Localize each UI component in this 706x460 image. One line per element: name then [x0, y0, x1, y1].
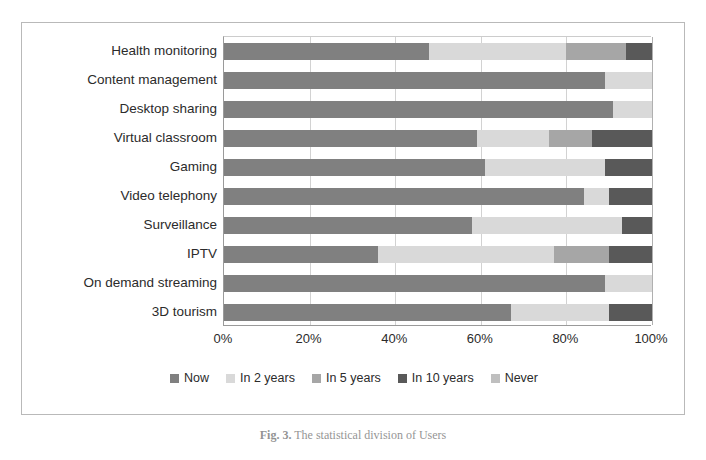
bar-row — [224, 72, 651, 89]
category-label: Video telephony — [27, 188, 217, 203]
bar-row — [224, 159, 651, 176]
figure-caption: Fig. 3. The statistical division of User… — [0, 428, 706, 443]
chart-legend: NowIn 2 yearsIn 5 yearsIn 10 yearsNever — [22, 371, 686, 385]
legend-swatch-icon — [226, 374, 235, 383]
bar-segment — [224, 72, 605, 89]
bar-segment — [549, 130, 592, 147]
legend-label: In 5 years — [326, 371, 381, 385]
category-label: Desktop sharing — [27, 101, 217, 116]
bar-row — [224, 275, 651, 292]
category-label: IPTV — [27, 246, 217, 261]
x-tick-label: 20% — [296, 331, 322, 346]
bar-row — [224, 304, 651, 321]
x-tick-label: 100% — [634, 331, 667, 346]
legend-label: Now — [184, 371, 209, 385]
bar-segment — [613, 101, 652, 118]
value-axis-labels: 0%20%40%60%80%100% — [223, 331, 651, 351]
stacked-bar-chart: Health monitoringContent managementDeskt… — [22, 23, 686, 416]
bar-segment — [224, 101, 613, 118]
bar-segment — [224, 275, 605, 292]
category-label: Health monitoring — [27, 43, 217, 58]
bar-segment — [609, 304, 652, 321]
bar-segment — [224, 43, 429, 60]
legend-item[interactable]: In 5 years — [312, 371, 381, 385]
bar-segment — [224, 304, 511, 321]
bar-segment — [485, 159, 605, 176]
figure-caption-text: The statistical division of Users — [294, 428, 446, 442]
bar-segment — [429, 43, 566, 60]
x-tick-label: 80% — [552, 331, 578, 346]
bar-segment — [609, 188, 652, 205]
gridline-100 — [652, 37, 653, 325]
bar-segment — [605, 159, 652, 176]
category-label: Virtual classroom — [27, 130, 217, 145]
bar-segment — [472, 217, 622, 234]
legend-item[interactable]: Never — [491, 371, 538, 385]
bar-segment — [584, 188, 610, 205]
category-label: Surveillance — [27, 217, 217, 232]
legend-item[interactable]: In 10 years — [398, 371, 474, 385]
bars-layer — [224, 37, 651, 325]
legend-label: Never — [505, 371, 538, 385]
figure-number: Fig. 3. — [260, 428, 292, 442]
bar-segment — [224, 130, 477, 147]
bar-segment — [566, 43, 626, 60]
bar-segment — [609, 246, 652, 263]
bar-row — [224, 246, 651, 263]
bar-segment — [378, 246, 553, 263]
bar-row — [224, 43, 651, 60]
category-label: Content management — [27, 72, 217, 87]
figure-frame: Health monitoringContent managementDeskt… — [21, 22, 685, 415]
bar-row — [224, 130, 651, 147]
legend-swatch-icon — [398, 374, 407, 383]
category-label: 3D tourism — [27, 304, 217, 319]
bar-segment — [224, 246, 378, 263]
legend-item[interactable]: Now — [170, 371, 209, 385]
legend-swatch-icon — [491, 374, 500, 383]
bar-segment — [477, 130, 550, 147]
bar-row — [224, 188, 651, 205]
legend-item[interactable]: In 2 years — [226, 371, 295, 385]
bar-segment — [511, 304, 609, 321]
bar-segment — [626, 43, 652, 60]
plot-area — [223, 36, 651, 326]
bar-row — [224, 217, 651, 234]
category-label: On demand streaming — [27, 275, 217, 290]
category-axis-labels: Health monitoringContent managementDeskt… — [22, 36, 217, 326]
category-label: Gaming — [27, 159, 217, 174]
bar-segment — [592, 130, 652, 147]
legend-swatch-icon — [170, 374, 179, 383]
bar-row — [224, 101, 651, 118]
bar-segment — [605, 72, 652, 89]
legend-label: In 10 years — [412, 371, 474, 385]
x-tick-label: 40% — [381, 331, 407, 346]
legend-label: In 2 years — [240, 371, 295, 385]
bar-segment — [224, 188, 584, 205]
bar-segment — [605, 275, 652, 292]
x-tick-label: 60% — [467, 331, 493, 346]
x-tick-label: 0% — [214, 331, 233, 346]
legend-swatch-icon — [312, 374, 321, 383]
bar-segment — [224, 159, 485, 176]
bar-segment — [622, 217, 652, 234]
bar-segment — [554, 246, 610, 263]
bar-segment — [224, 217, 472, 234]
